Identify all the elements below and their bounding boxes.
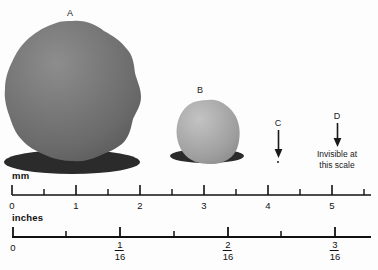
marker-d-note-line1: Invisible at <box>296 149 378 160</box>
fraction-numerator: 3 <box>330 240 341 250</box>
particle-a-blob <box>0 18 146 164</box>
down-arrow-icon <box>332 122 343 148</box>
mm-tick-label: 1 <box>73 200 78 211</box>
fraction-numerator: 2 <box>223 240 234 250</box>
mm-ruler-axis <box>0 184 378 202</box>
fraction-denominator: 16 <box>223 252 234 262</box>
fraction: 1 16 <box>115 240 126 261</box>
down-arrow-icon <box>273 129 284 159</box>
particle-size-figure: A B <box>0 0 378 270</box>
inches-tick-label: 0 <box>10 242 15 253</box>
mm-ruler: mm 0 1 2 3 4 5 <box>0 170 378 212</box>
marker-d-group: D Invisible at this scale <box>296 111 378 170</box>
particle-b-group: B <box>160 85 260 177</box>
particle-b-blob <box>174 98 242 166</box>
marker-c-dot <box>277 161 279 163</box>
fraction-denominator: 16 <box>330 252 341 262</box>
mm-tick-label: 3 <box>201 200 206 211</box>
mm-ruler-name: mm <box>12 170 29 181</box>
fraction-denominator: 16 <box>115 252 126 262</box>
particle-b-label: B <box>190 85 210 95</box>
fraction-numerator: 1 <box>115 240 126 250</box>
marker-c-group: C <box>258 118 298 163</box>
mm-tick-label: 5 <box>329 200 334 211</box>
mm-tick-label: 4 <box>265 200 270 211</box>
mm-tick-label: 0 <box>9 200 14 211</box>
inches-ruler: inches 0 1 16 2 16 <box>0 212 378 268</box>
marker-d-label: D <box>296 111 378 121</box>
inches-tick-label: 3 16 <box>330 240 341 262</box>
fraction: 3 16 <box>330 240 341 261</box>
inches-ruler-name: inches <box>12 212 43 223</box>
inches-ruler-axis <box>0 226 378 244</box>
marker-c-label: C <box>258 118 298 128</box>
particle-a-group: A <box>0 8 160 176</box>
inches-tick-label: 1 16 <box>115 240 126 262</box>
marker-d-note-line2: this scale <box>296 160 378 171</box>
fraction: 2 16 <box>223 240 234 261</box>
particle-a-label: A <box>60 8 80 18</box>
mm-tick-label: 2 <box>137 200 142 211</box>
inches-tick-label: 2 16 <box>223 240 234 262</box>
